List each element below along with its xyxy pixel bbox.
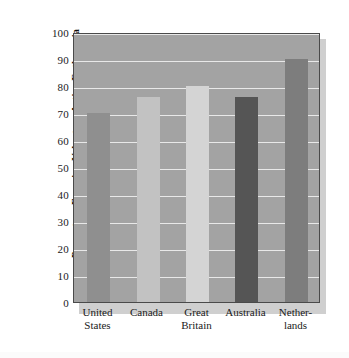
chart-figure: Percentage Favoring Voluntary Active Eut… (0, 0, 349, 358)
x-axis-tick-label: UnitedStates (73, 306, 122, 332)
x-axis-label-line: Great (172, 306, 221, 319)
y-axis-tick-label: 60 (35, 136, 69, 146)
y-axis-tick-label: 40 (35, 190, 69, 200)
y-axis-ticks: 0102030405060708090100 (31, 33, 69, 303)
y-axis-tick-label: 80 (35, 82, 69, 92)
x-axis-label-line: Australia (221, 306, 270, 319)
bar (87, 113, 110, 302)
plot-area (73, 33, 320, 303)
x-axis-labels: UnitedStatesCanadaGreatBritainAustraliaN… (73, 306, 320, 350)
x-axis-label-line: Nether- (271, 306, 320, 319)
x-axis-tick-label: Canada (122, 306, 171, 319)
scan-edge (0, 352, 349, 358)
y-axis-tick-label: 70 (35, 109, 69, 119)
y-axis-tick-label: 0 (35, 298, 69, 308)
y-axis-tick-label: 30 (35, 217, 69, 227)
x-axis-tick-label: Nether-lands (271, 306, 320, 332)
x-axis-label-line: lands (271, 319, 320, 332)
y-axis-tick-label: 100 (35, 28, 69, 38)
y-axis-tick-label: 50 (35, 163, 69, 173)
y-axis-tick-label: 10 (35, 271, 69, 281)
gridline (74, 34, 319, 35)
x-axis-label-line: Canada (122, 306, 171, 319)
bar (137, 97, 160, 302)
y-axis-tick-label: 20 (35, 244, 69, 254)
x-axis-label-line: States (73, 319, 122, 332)
y-axis-tick-label: 90 (35, 55, 69, 65)
bar (235, 97, 258, 302)
gridline (74, 61, 319, 62)
bar (285, 59, 308, 302)
x-axis-label-line: Britain (172, 319, 221, 332)
x-axis-tick-label: Australia (221, 306, 270, 319)
x-axis-label-line: United (73, 306, 122, 319)
x-axis-tick-label: GreatBritain (172, 306, 221, 332)
bar (186, 86, 209, 302)
